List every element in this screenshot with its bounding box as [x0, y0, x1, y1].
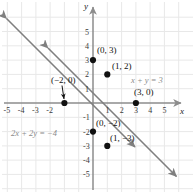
y-tick-label-neg4: -4: [83, 157, 90, 165]
y-tick-label-neg5: -5: [83, 171, 90, 179]
point-label-neg2-0: (−2, 0): [51, 76, 76, 85]
point-label-1-neg3: (1, −3): [110, 134, 135, 143]
point-1-2: [104, 71, 110, 77]
point-0-neg2: [90, 129, 96, 135]
coordinate-plane-figure: -5 -4 -3 -2 1 2 3 4 5 5 4 3 2 1 -1 -2 -3…: [0, 0, 195, 194]
y-tick-label-1: 1: [85, 86, 89, 94]
y-tick-label-2: 2: [85, 71, 89, 79]
equation-label-top: x + y = 3: [131, 76, 163, 85]
point-label-0-3: (0, 3): [97, 46, 117, 55]
point-0-3: [90, 57, 96, 63]
y-axis-label: y: [84, 2, 88, 11]
point-label-0-neg2: (0, −2): [96, 119, 121, 128]
point-1-neg3: [104, 143, 110, 149]
x-axis-label: x: [180, 107, 184, 116]
graph-canvas: [0, 0, 195, 194]
x-tick-label-5: 5: [163, 107, 167, 115]
x-tick-label-neg3: -3: [32, 107, 39, 115]
leader-arrow-neg2-0: [62, 86, 64, 100]
y-tick-label-neg3: -3: [83, 143, 90, 151]
axis-lines: [4, 7, 181, 190]
point-label-1-2: (1, 2): [112, 62, 132, 71]
y-tick-label-neg1: -1: [83, 114, 90, 122]
x-tick-label-1: 1: [106, 107, 110, 115]
y-tick-label-5: 5: [85, 29, 89, 37]
y-tick-label-neg2: -2: [83, 129, 90, 137]
x-tick-label-neg2: -2: [46, 107, 53, 115]
x-tick-label-4: 4: [148, 107, 152, 115]
y-tick-label-3: 3: [85, 57, 89, 65]
x-tick-label-neg5: -5: [4, 107, 11, 115]
x-tick-label-2: 2: [120, 107, 124, 115]
point-label-3-0: (3, 0): [134, 88, 154, 97]
y-tick-label-4: 4: [85, 43, 89, 51]
equation-label-bottom: 2x + 2y = −4: [11, 129, 57, 138]
point-neg2-0: [61, 100, 67, 106]
x-tick-label-3: 3: [134, 107, 138, 115]
x-tick-label-neg4: -4: [18, 107, 25, 115]
